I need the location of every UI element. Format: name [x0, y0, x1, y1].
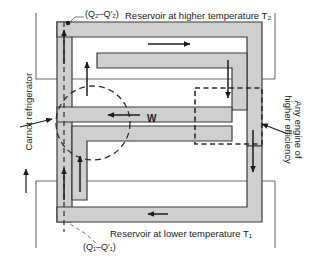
work-label: W — [147, 114, 156, 124]
flow-band — [57, 22, 262, 222]
lower-horizontal-channel — [57, 146, 262, 222]
bottom-reservoir-label: Reservoir at lower temperature T₁ — [110, 229, 252, 239]
middle-work-channel — [57, 107, 232, 122]
carnot-refrigerator-label: Carnot refrigerator — [24, 64, 34, 160]
diagram-svg — [0, 0, 311, 261]
heat-bottom-label: (Q₁–Q′₁) — [83, 243, 116, 252]
engine-label: Any engine of higher efficiency — [284, 84, 303, 176]
engine-label-line2: higher efficiency — [284, 84, 294, 176]
q1-leader-line — [70, 224, 96, 243]
q2-leader-dot — [66, 21, 71, 26]
lower-inner-channel — [72, 126, 232, 200]
top-reservoir-label: Reservoir at higher temperature T₂ — [125, 11, 271, 21]
heat-top-label: (Q₂–Q′₂) — [85, 10, 119, 19]
upper-inner-return-channel — [97, 53, 247, 110]
engine-label-line1: Any engine of — [293, 100, 304, 158]
figure-canvas: (Q₂–Q′₂) Reservoir at higher temperature… — [0, 0, 311, 261]
